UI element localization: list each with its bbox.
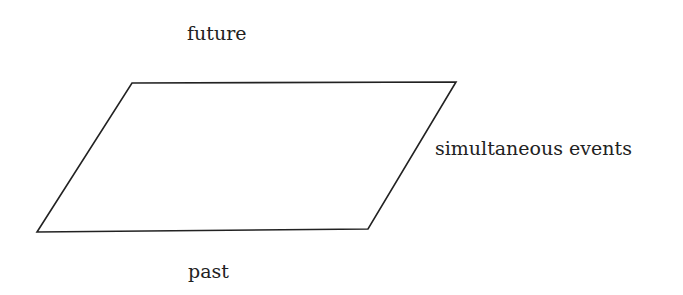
simultaneous-events-label: simultaneous events <box>435 139 632 158</box>
future-label: future <box>187 24 246 43</box>
simultaneity-plane <box>37 82 456 232</box>
past-label: past <box>188 262 229 281</box>
spacetime-diagram: future simultaneous events past <box>0 0 683 295</box>
